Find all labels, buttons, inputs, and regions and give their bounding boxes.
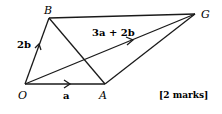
marks-label: [2 marks] bbox=[159, 90, 208, 100]
label-O: O bbox=[18, 89, 27, 102]
segment-OG bbox=[25, 14, 195, 84]
vector-diagram: B G O A a 2b 3a + 2b [2 marks] bbox=[0, 0, 222, 114]
segment-OB bbox=[25, 18, 49, 84]
segment-AG bbox=[105, 14, 195, 84]
label-B: B bbox=[43, 4, 52, 17]
segment-BG bbox=[49, 14, 195, 18]
label-A: A bbox=[98, 89, 107, 102]
vector-label-2b: 2b bbox=[17, 39, 31, 50]
vector-label-a: a bbox=[63, 90, 70, 101]
vector-label-3a-2b: 3a + 2b bbox=[92, 27, 135, 38]
label-G: G bbox=[201, 8, 210, 21]
